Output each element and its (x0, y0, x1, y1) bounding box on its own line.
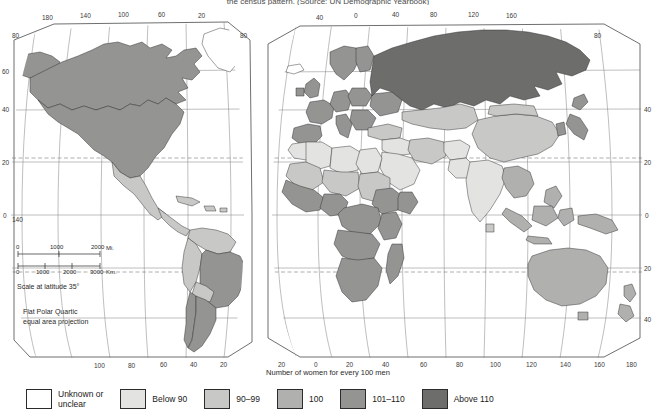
lon-label: 80 (456, 361, 464, 368)
region-puerto-rico (220, 208, 227, 212)
lon-label: 160 (594, 361, 605, 368)
region-united-kingdom (304, 78, 320, 98)
lon-label: 40 (190, 361, 198, 368)
region-australia (528, 248, 608, 306)
lon-label: 100 (94, 362, 105, 369)
scale-mi-tick: 1000 (50, 244, 64, 250)
region-japan (566, 94, 588, 140)
region-east-africa (378, 212, 402, 240)
region-finland (356, 46, 374, 72)
axis-labels-bottom-left: 100 80 60 40 20 (94, 361, 228, 369)
region-cuba (176, 196, 200, 206)
region-central-africa (338, 204, 382, 234)
region-borneo (532, 206, 558, 226)
legend-label: 101–110 (372, 394, 404, 404)
region-madagascar (386, 244, 404, 284)
lon-label: 20 (278, 361, 286, 368)
lat-label: 40 (644, 106, 652, 113)
legend-swatch (422, 389, 448, 409)
legend-item-100[interactable]: 100 (277, 389, 323, 409)
legend-item-unknown[interactable]: Unknown or unclear (26, 389, 103, 409)
region-korea (556, 122, 566, 136)
lon-label: 180 (42, 14, 53, 21)
region-turkey (368, 124, 402, 140)
region-tasmania (578, 312, 588, 320)
legend-swatch (26, 389, 52, 409)
legend-item-101-110[interactable]: 101–110 (340, 389, 404, 409)
region-central-asia (402, 104, 478, 130)
lon-label: 60 (158, 11, 166, 18)
world-map: 180 140 100 60 20 80 80 40 0 40 80 120 1… (0, 0, 656, 385)
legend-item-above-110[interactable]: Above 110 (422, 389, 494, 409)
scale-mi-unit: Mi. (106, 245, 114, 251)
region-iran (408, 138, 446, 164)
lon-label: 0 (354, 12, 358, 19)
lon-label: 180 (626, 361, 637, 368)
region-germany (330, 90, 352, 112)
region-india (466, 160, 506, 222)
landmasses-eastern-hemisphere (282, 30, 636, 322)
region-norway-sweden (330, 46, 360, 80)
region-russia (370, 30, 590, 110)
legend-swatch (204, 389, 230, 409)
map-caption: Number of women for every 100 men (266, 368, 390, 377)
lon-label: 40 (382, 361, 390, 368)
scale-km-tick: 1000 (36, 269, 50, 275)
legend-label: Below 90 (152, 394, 187, 404)
lon-label: 60 (160, 361, 168, 368)
region-afghanistan (444, 140, 470, 160)
region-angola-zambia (334, 230, 380, 262)
projection-line-1: Flat Polar Quartic (23, 308, 78, 316)
lon-label: 20 (198, 12, 206, 19)
lon-label: 40 (316, 14, 324, 21)
region-china (472, 114, 560, 162)
region-ireland (296, 88, 304, 96)
lon-label: 20 (346, 361, 354, 368)
scale-km-tick: 2000 (63, 269, 77, 275)
lon-label: 120 (526, 361, 537, 368)
legend-label: 90–99 (236, 394, 260, 404)
lon-label: 80 (128, 362, 136, 369)
lon-label: 140 (560, 361, 571, 368)
legend-swatch (340, 389, 366, 409)
region-iceland (286, 64, 304, 74)
scale-mi-tick: 0 (16, 244, 20, 250)
lon-label: 120 (468, 11, 479, 18)
axis-labels-left: 60 40 20 0 140 (2, 68, 23, 223)
region-libya (330, 146, 360, 174)
region-central-america (158, 208, 190, 236)
lat-label-top-left: 80 (12, 32, 20, 39)
region-spain-portugal (292, 124, 322, 144)
lon-label: 60 (420, 361, 428, 368)
lon-label: 20 (220, 361, 228, 368)
scale-km-unit: Km. (106, 269, 117, 275)
lon-label: 40 (392, 11, 400, 18)
region-java (526, 236, 552, 244)
lat-label: 60 (2, 68, 10, 75)
lon-label-left-bottom: 140 (12, 216, 23, 223)
map-legend: Unknown or unclear Below 90 90–99 100 10… (0, 380, 656, 418)
legend-swatch (277, 389, 303, 409)
region-italy (336, 114, 352, 138)
lat-label-top-right-w: 80 (240, 32, 248, 39)
lat-label: 20 (644, 265, 652, 272)
legend-item-90-99[interactable]: 90–99 (204, 389, 260, 409)
lat-label: 20 (644, 159, 652, 166)
region-greenland (202, 28, 244, 72)
legend-item-below-90[interactable]: Below 90 (120, 389, 187, 409)
region-philippines (544, 186, 562, 208)
lat-label: 40 (2, 106, 10, 113)
legend-swatch (120, 389, 146, 409)
region-sri-lanka (486, 224, 494, 232)
region-hispaniola (204, 206, 216, 211)
region-somalia (398, 192, 418, 214)
region-niger-chad (322, 170, 360, 196)
lon-label: 80 (430, 11, 438, 18)
lon-label: 100 (490, 361, 501, 368)
region-southern-africa (336, 258, 382, 302)
axis-labels-bottom-right: 20 0 20 40 60 80 100 120 140 160 180 (278, 361, 637, 368)
landmasses-western-hemisphere (16, 28, 246, 352)
legend-label: Unknown or unclear (58, 389, 103, 409)
scale-mi-tick: 2000 (91, 244, 105, 250)
region-indochina (502, 166, 534, 198)
